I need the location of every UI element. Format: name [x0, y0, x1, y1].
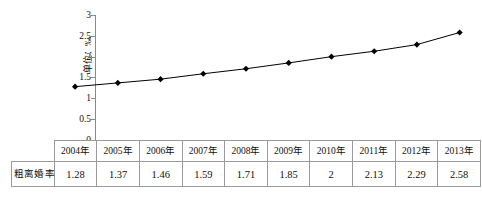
series-markers: [72, 29, 463, 89]
table-header-row: 2004年 2005年 2006年 2007年 2008年 2009年 2010…: [12, 141, 481, 162]
table-value-cell: 2: [310, 162, 353, 187]
data-point-marker: [243, 66, 249, 72]
table-value-cell: 1.71: [225, 162, 268, 187]
data-point-marker: [457, 29, 463, 35]
table-corner-cell: [12, 141, 55, 162]
data-point-marker: [200, 71, 206, 77]
table-header-cell: 2009年: [267, 141, 310, 162]
table-header-cell: 2004年: [54, 141, 97, 162]
table-value-cell: 1.85: [267, 162, 310, 187]
table-value-cell: 1.28: [54, 162, 97, 187]
legend-entry: 粗离婚率: [12, 162, 55, 187]
table-value-cell: 2.29: [395, 162, 438, 187]
table-data-row: 粗离婚率 1.28 1.37 1.46 1.59 1.71 1.85 2 2.1…: [12, 162, 481, 187]
data-point-marker: [328, 54, 334, 60]
table-value-cell: 1.37: [97, 162, 140, 187]
data-point-marker: [414, 41, 420, 47]
table-value-cell: 2.13: [353, 162, 396, 187]
data-point-marker: [115, 80, 121, 86]
table-header-cell: 2011年: [353, 141, 396, 162]
series-line-粗离婚率: [75, 33, 460, 87]
table-value-cell: 1.59: [182, 162, 225, 187]
chart-figure: 单位：‰ 3 2.5 2 1.5 1 0.5 0 2004年: [0, 0, 482, 197]
table-header-cell: 2010年: [310, 141, 353, 162]
chart-data-table: 2004年 2005年 2006年 2007年 2008年 2009年 2010…: [11, 140, 481, 187]
table-value-cell: 1.46: [139, 162, 182, 187]
series-plot: [0, 0, 482, 141]
data-point-marker: [157, 76, 163, 82]
table-header-cell: 2008年: [225, 141, 268, 162]
plot-area: 单位：‰ 3 2.5 2 1.5 1 0.5 0: [0, 0, 482, 141]
table-header-cell: 2005年: [97, 141, 140, 162]
data-point-marker: [286, 60, 292, 66]
data-point-marker: [371, 48, 377, 54]
data-point-marker: [72, 84, 78, 90]
table-header-cell: 2007年: [182, 141, 225, 162]
table-header-cell: 2012年: [395, 141, 438, 162]
legend-label: 粗离婚率: [14, 169, 55, 180]
table-header-cell: 2013年: [438, 141, 481, 162]
table-value-cell: 2.58: [438, 162, 481, 187]
table-header-cell: 2006年: [139, 141, 182, 162]
